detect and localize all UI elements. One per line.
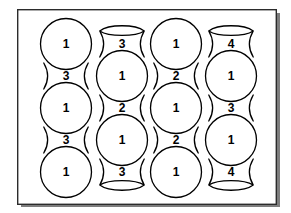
label-c4-u1: 4 — [228, 37, 235, 51]
label-c1-u3: 1 — [63, 101, 70, 115]
label-c3-u5: 1 — [173, 165, 180, 179]
label-c1-u4: 3 — [63, 133, 70, 147]
label-c2-u1: 3 — [119, 37, 126, 51]
label-c2-u2: 1 — [119, 69, 126, 83]
label-c4-u3: 3 — [228, 101, 235, 115]
label-c1-u5: 1 — [63, 165, 70, 179]
label-c1-u2: 3 — [63, 69, 70, 83]
label-c2-u3: 2 — [119, 101, 126, 115]
column-3: 12121 — [151, 19, 202, 198]
column-1: 13131 — [41, 19, 92, 198]
label-c3-u4: 2 — [173, 133, 180, 147]
diagram-canvas: 13131312131212141314 — [0, 0, 291, 213]
label-c4-u4: 1 — [228, 133, 235, 147]
packed-spheres-diagram: 13131312131212141314 — [0, 0, 291, 213]
label-c3-u1: 1 — [173, 37, 180, 51]
label-c4-u2: 1 — [228, 69, 235, 83]
label-c3-u3: 1 — [173, 101, 180, 115]
label-c2-u5: 3 — [119, 165, 126, 179]
label-c3-u2: 2 — [173, 69, 180, 83]
label-c4-u5: 4 — [228, 165, 235, 179]
label-c2-u4: 1 — [119, 133, 126, 147]
frame-shadow-right — [277, 13, 280, 207]
label-c1-u1: 1 — [63, 37, 70, 51]
